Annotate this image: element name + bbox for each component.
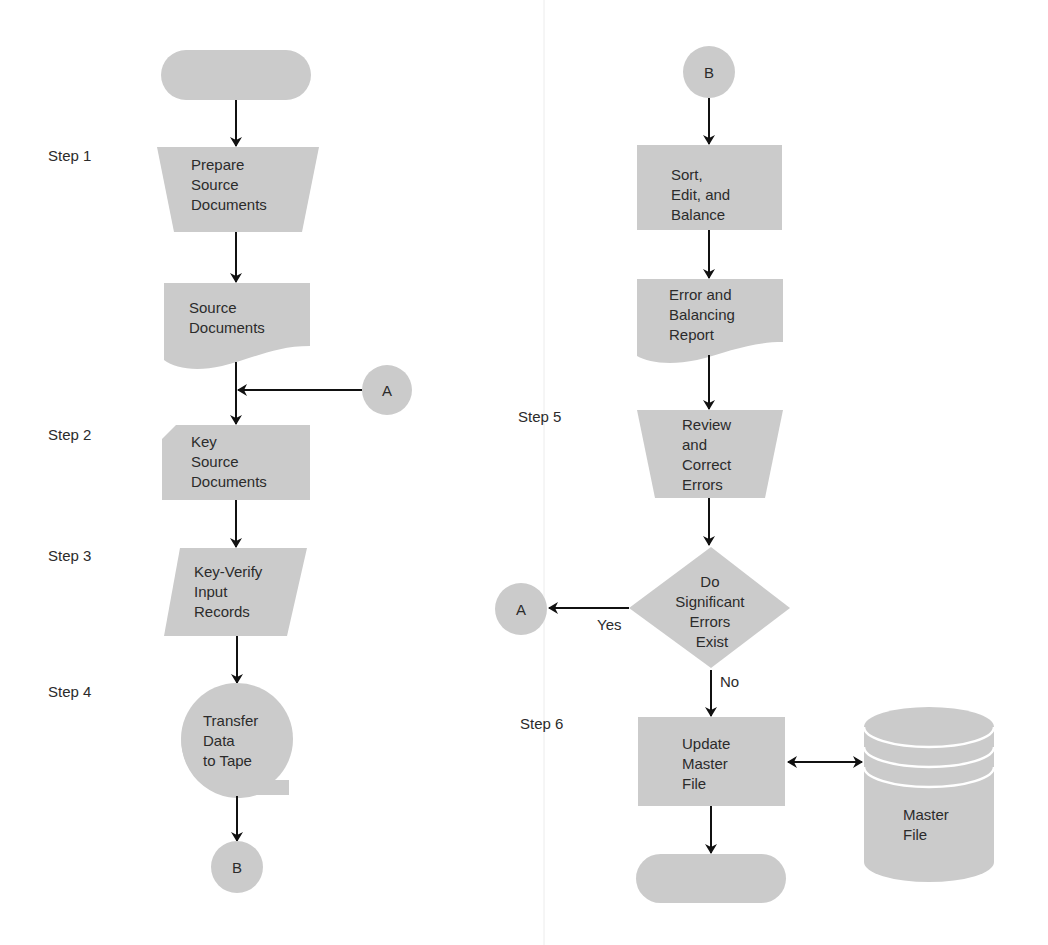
transfer-tape-tail — [237, 780, 289, 795]
no-label: No — [720, 673, 739, 690]
connector-b-right-label: B — [704, 64, 714, 81]
step-5-label: Step 5 — [518, 408, 561, 425]
connector-a-left-label: A — [382, 382, 392, 399]
start-terminal — [161, 50, 311, 100]
connector-a-right-label: A — [516, 601, 526, 618]
step-3-label: Step 3 — [48, 547, 91, 564]
key-verify-input-records-shape — [164, 548, 307, 636]
end-terminal — [636, 854, 786, 903]
step-1-label: Step 1 — [48, 147, 91, 164]
step-2-label: Step 2 — [48, 426, 91, 443]
yes-label: Yes — [597, 616, 621, 633]
step-4-label: Step 4 — [48, 683, 91, 700]
step-6-label: Step 6 — [520, 715, 563, 732]
connector-b-left-label: B — [232, 859, 242, 876]
flowchart-canvas: Step 1 Step 2 Step 3 Step 4 Step 5 Step … — [0, 0, 1048, 945]
master-file-cylinder — [864, 707, 994, 882]
